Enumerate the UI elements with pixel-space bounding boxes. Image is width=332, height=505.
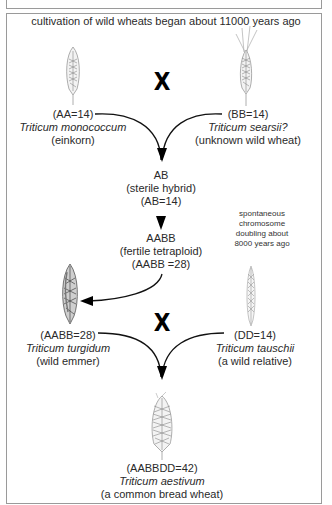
wheat-ear-tauschii-icon: [240, 264, 262, 328]
tauschii-genome: (DD=14): [216, 329, 295, 342]
tetraploid-genome: AABB: [120, 232, 203, 245]
searsii-species: Triticum searsii?: [195, 121, 301, 134]
node-tetraploid: AABB (fertile tetraploid) (AABB =28): [120, 232, 203, 271]
node-emmer: (AABB=28) Triticum turgidum (wild emmer): [26, 329, 110, 368]
emmer-genome: (AABB=28): [26, 329, 110, 342]
cross-symbol-1: X: [154, 68, 171, 96]
hybrid-count: (AB=14): [126, 195, 196, 208]
wheat-ear-emmer-icon: [58, 262, 82, 328]
wheat-ear-searsii-icon: [230, 24, 264, 108]
searsii-common-name: (unknown wild wheat): [195, 134, 301, 147]
einkorn-genome: (AA=14): [20, 108, 127, 121]
emmer-common-name: (wild emmer): [26, 355, 110, 368]
einkorn-species: Triticum monococcum: [20, 121, 127, 134]
chromosome-doubling-note: spontaneous chromosome doubling about 80…: [234, 209, 289, 249]
hybrid-description: (sterile hybrid): [126, 182, 196, 195]
searsii-genome: (BB=14): [195, 108, 301, 121]
aestivum-common-name: (a common bread wheat): [101, 488, 223, 501]
arrowhead-aestivum: [157, 366, 167, 380]
node-hybrid: AB (sterile hybrid) (AB=14): [126, 169, 196, 208]
emmer-species: Triticum turgidum: [26, 342, 110, 355]
node-aestivum: (AABBDD=42) Triticum aestivum (a common …: [101, 462, 223, 501]
arrow-tetraploid-to-emmer: [88, 274, 162, 301]
aestivum-species: Triticum aestivum: [101, 475, 223, 488]
cross-symbol-2: X: [154, 309, 171, 337]
node-searsii: (BB=14) Triticum searsii? (unknown wild …: [195, 108, 301, 147]
tetraploid-count: (AABB =28): [120, 258, 203, 271]
arrowhead-tetraploid: [156, 216, 166, 230]
hybrid-genome: AB: [126, 169, 196, 182]
tauschii-common-name: (a wild relative): [216, 355, 295, 368]
wheat-ear-aestivum-icon: [144, 392, 180, 460]
aestivum-genome: (AABBDD=42): [101, 462, 223, 475]
tauschii-species: Triticum tauschii: [216, 342, 295, 355]
node-einkorn: (AA=14) Triticum monococcum (einkorn): [20, 108, 127, 147]
wheat-ear-einkorn-icon: [60, 45, 86, 107]
node-tauschii: (DD=14) Triticum tauschii (a wild relati…: [216, 329, 295, 368]
einkorn-common-name: (einkorn): [20, 134, 127, 147]
arrowhead-hybrid: [157, 148, 167, 162]
tetraploid-description: (fertile tetraploid): [120, 245, 203, 258]
